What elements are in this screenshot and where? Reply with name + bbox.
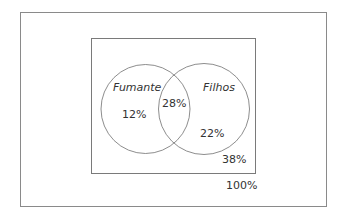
universe-value: 100%	[226, 180, 257, 192]
set-filhos-label: Filhos	[203, 82, 235, 94]
intersection-value: 28%	[162, 98, 186, 110]
filhos-only-value: 22%	[200, 128, 224, 140]
outside-sets-value: 38%	[222, 154, 246, 166]
set-fumante-label: Fumante	[113, 82, 161, 94]
fumante-only-value: 12%	[122, 109, 146, 121]
